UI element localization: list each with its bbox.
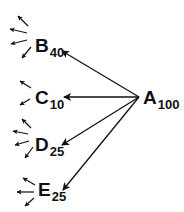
- node-d-value: 25: [50, 144, 64, 159]
- node-c-letter: C: [35, 87, 49, 108]
- node-d-letter: D: [35, 134, 49, 155]
- node-d: D25: [35, 135, 64, 154]
- edge-a-to-d: [62, 97, 139, 145]
- node-e-letter: E: [38, 179, 51, 200]
- branching-diagram: A100 B40 C10 D25 E25: [0, 0, 184, 212]
- c-outgoing-arrows: [20, 81, 31, 105]
- edge-a-to-b: [62, 51, 139, 97]
- node-a-value: 100: [158, 97, 180, 112]
- b-outgoing-arrows: [10, 16, 31, 58]
- e-outgoing-arrows: [17, 178, 35, 206]
- node-e: E25: [38, 180, 66, 199]
- d-outgoing-arrows: [13, 119, 33, 158]
- node-c-value: 10: [50, 97, 64, 112]
- node-b-value: 40: [50, 45, 64, 60]
- edge-a-to-e: [63, 97, 139, 190]
- node-a: A100: [143, 88, 179, 107]
- node-a-letter: A: [143, 87, 157, 108]
- node-c: C10: [35, 88, 64, 107]
- node-b: B40: [35, 36, 64, 55]
- node-e-value: 25: [52, 189, 66, 204]
- node-b-letter: B: [35, 35, 49, 56]
